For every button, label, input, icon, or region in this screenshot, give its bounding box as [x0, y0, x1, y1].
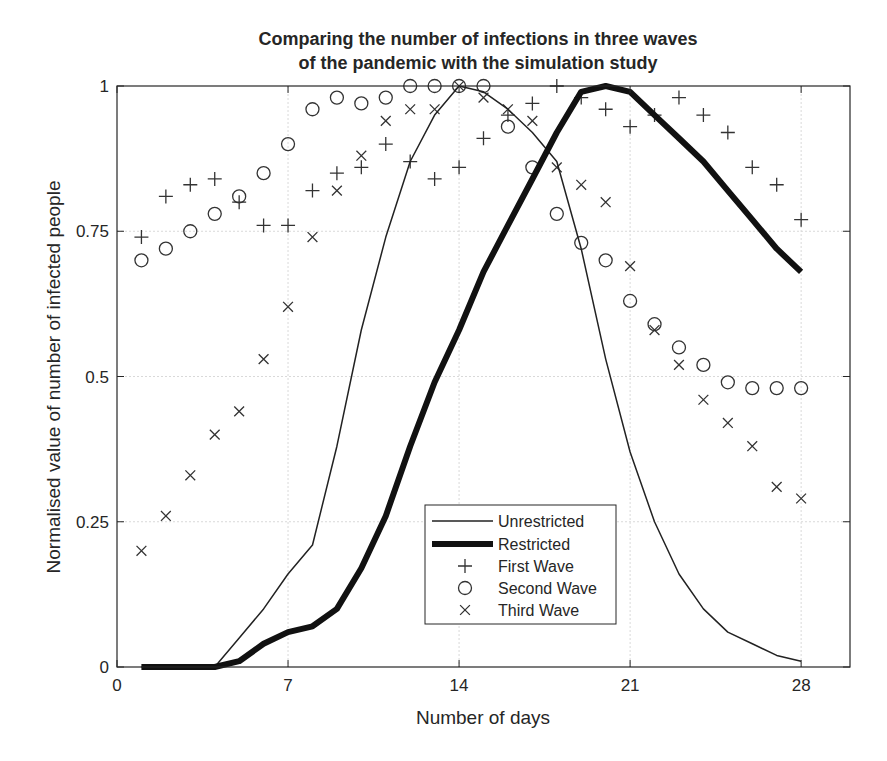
chart-title-line-1: Comparing the number of infections in th…: [258, 29, 697, 49]
y-axis-label: Normalised value of number of infected p…: [43, 181, 64, 574]
legend: UnrestrictedRestrictedFirst WaveSecond W…: [425, 505, 616, 624]
y-tick-label: 0: [100, 658, 109, 677]
x-tick-label: 7: [283, 676, 292, 695]
y-tick-label: 0.75: [76, 222, 109, 241]
x-tick-label: 14: [450, 676, 469, 695]
y-tick-label: 1: [100, 77, 109, 96]
legend-label: Unrestricted: [498, 513, 584, 530]
legend-label: Second Wave: [498, 580, 597, 597]
x-tick-label: 0: [112, 676, 121, 695]
y-tick-label: 0.25: [76, 513, 109, 532]
x-tick-label: 28: [792, 676, 811, 695]
x-tick-label: 21: [621, 676, 640, 695]
y-tick-label: 0.5: [85, 368, 109, 387]
chart-title-line-2: of the pandemic with the simulation stud…: [298, 53, 657, 73]
chart-canvas: Comparing the number of infections in th…: [0, 0, 887, 761]
legend-label: Restricted: [498, 536, 570, 553]
legend-label: First Wave: [498, 558, 574, 575]
x-axis-label: Number of days: [416, 707, 550, 728]
chart-background: [0, 0, 887, 761]
legend-label: Third Wave: [498, 602, 579, 619]
